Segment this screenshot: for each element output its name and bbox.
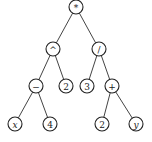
tree-node: − (29, 79, 43, 93)
tree-node: x (8, 117, 22, 131)
tree-nodes: *^/−23+x42y (8, 0, 143, 131)
node-label: 2 (99, 120, 105, 130)
node-label: 3 (84, 82, 90, 92)
node-label: y (132, 120, 139, 130)
expression-tree-diagram: *^/−23+x42y (0, 0, 152, 142)
tree-node: y (129, 117, 143, 131)
node-label: 4 (47, 120, 53, 130)
tree-edge (38, 93, 47, 118)
tree-edges (18, 13, 132, 118)
node-label: * (74, 3, 79, 13)
node-label: ^ (49, 45, 57, 55)
tree-edge (89, 56, 97, 80)
tree-edge (18, 92, 32, 118)
tree-node: + (105, 79, 119, 93)
node-label: + (108, 82, 116, 92)
tree-node: 2 (59, 79, 73, 93)
tree-edge (39, 55, 50, 79)
tree-node: 3 (80, 79, 94, 93)
tree-node: ^ (46, 42, 60, 56)
tree-edge (56, 13, 72, 43)
tree-node: * (69, 0, 83, 14)
node-label: x (12, 120, 17, 130)
node-label: 2 (63, 82, 69, 92)
tree-edge (116, 92, 133, 118)
tree-edge (101, 56, 109, 80)
node-label: − (32, 82, 40, 92)
tree-node: 4 (43, 117, 57, 131)
tree-edge (104, 93, 110, 117)
tree-edge (55, 56, 63, 80)
tree-node: 2 (95, 117, 109, 131)
tree-edge (79, 13, 95, 43)
tree-node: / (92, 42, 106, 56)
